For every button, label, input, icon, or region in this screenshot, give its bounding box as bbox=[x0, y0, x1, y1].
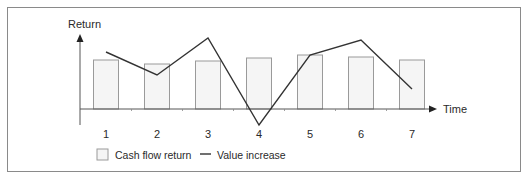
legend-bar-swatch bbox=[97, 149, 108, 160]
x-axis-label: Time bbox=[443, 103, 467, 115]
chart: Return Time 1234567 Cash flow return Val… bbox=[0, 0, 529, 182]
x-tick-label: 3 bbox=[205, 128, 211, 140]
bar-4 bbox=[247, 58, 272, 109]
bar-1 bbox=[94, 60, 119, 109]
x-tick-label: 7 bbox=[409, 128, 415, 140]
legend-bar-label: Cash flow return bbox=[115, 149, 192, 161]
x-tick-label: 2 bbox=[154, 128, 160, 140]
y-axis-label: Return bbox=[68, 18, 101, 30]
x-tick-label: 4 bbox=[256, 128, 262, 140]
bar-series-cash-flow-return bbox=[94, 55, 425, 109]
x-tick-label: 5 bbox=[307, 128, 313, 140]
bar-3 bbox=[196, 61, 221, 109]
legend: Cash flow return Value increase bbox=[97, 149, 286, 161]
bar-5 bbox=[298, 55, 323, 109]
y-axis-arrow-icon bbox=[77, 34, 84, 42]
legend-line-label: Value increase bbox=[217, 149, 286, 161]
x-tick-label: 6 bbox=[358, 128, 364, 140]
x-axis-arrow-icon bbox=[429, 106, 437, 113]
x-tick-label: 1 bbox=[103, 128, 109, 140]
x-tick-labels: 1234567 bbox=[103, 128, 415, 140]
bar-6 bbox=[349, 57, 374, 109]
bar-7 bbox=[400, 60, 425, 109]
